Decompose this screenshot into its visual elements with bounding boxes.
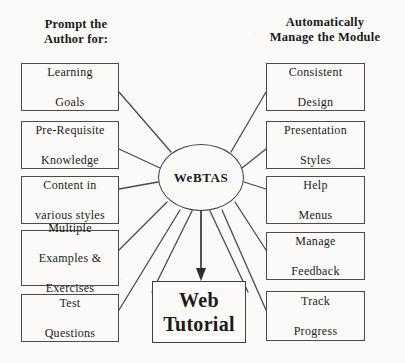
node-label-line1: Consistent: [287, 65, 345, 80]
node-web-tutorial[interactable]: Web Tutorial: [152, 281, 246, 343]
node-learning-goals[interactable]: Learning Goals: [21, 63, 119, 111]
node-label-line2: Styles: [282, 153, 349, 168]
node-label-line1: Learning: [45, 65, 95, 80]
node-pre-requisite-knowledge[interactable]: Pre-Requisite Knowledge: [21, 121, 119, 169]
node-track-progress[interactable]: Track Progress: [266, 291, 365, 341]
spoke-left-3: [119, 182, 158, 189]
column-header-right: Automatically Manage the Module: [250, 15, 400, 45]
node-label-line2: Menus: [296, 208, 334, 223]
node-label-line2: Progress: [292, 324, 340, 339]
node-label-line1: Track: [292, 294, 340, 309]
node-label-line1: Pre-Requisite: [33, 123, 106, 138]
header-left-line1: Prompt the: [14, 17, 138, 32]
spoke-left-1: [119, 92, 171, 152]
spoke-right-1: [231, 92, 266, 152]
node-label-line1: Help: [296, 178, 334, 193]
outcome-label-line1: Web: [179, 289, 219, 311]
node-label-line1: Test: [43, 296, 98, 311]
node-consistent-design[interactable]: Consistent Design: [266, 63, 365, 111]
column-header-left: Prompt the Author for:: [14, 17, 138, 47]
node-label-line1: Manage: [289, 234, 341, 249]
node-label-line2: Design: [287, 95, 345, 110]
node-content-various-styles[interactable]: Content in various styles: [21, 176, 119, 224]
header-right-line2: Manage the Module: [250, 30, 400, 45]
spoke-outcome-right: [210, 211, 248, 292]
spoke-left-2: [119, 149, 160, 168]
outcome-label-line2: Tutorial: [163, 313, 235, 335]
diagram-canvas: Prompt the Author for: Automatically Man…: [0, 0, 405, 363]
node-test-questions[interactable]: Test Questions: [21, 294, 119, 342]
node-label-line2: Examples &: [37, 251, 104, 266]
hub-to-outcome-arrow: [196, 211, 206, 281]
hub-webtas[interactable]: WeBTAS: [158, 144, 244, 211]
node-label-line1: Content in: [33, 178, 107, 193]
node-label-line2: Knowledge: [33, 153, 106, 168]
node-label-line1: Multiple: [37, 221, 104, 236]
header-right-line1: Automatically: [250, 15, 400, 30]
spoke-right-3: [244, 182, 266, 189]
node-presentation-styles[interactable]: Presentation Styles: [266, 121, 365, 169]
node-label-line2: Questions: [43, 326, 98, 341]
node-manage-feedback[interactable]: Manage Feedback: [266, 232, 365, 280]
node-label-line1: Presentation: [282, 123, 349, 138]
node-label-line2: Feedback: [289, 264, 341, 279]
node-help-menus[interactable]: Help Menus: [266, 176, 365, 224]
spoke-right-4: [235, 202, 266, 250]
node-multiple-examples-exercises[interactable]: Multiple Examples & Exercises: [21, 230, 119, 286]
node-label-line2: Goals: [45, 95, 95, 110]
header-left-line2: Author for:: [14, 32, 138, 47]
hub-label: WeBTAS: [174, 170, 229, 186]
spoke-right-2: [242, 149, 266, 168]
